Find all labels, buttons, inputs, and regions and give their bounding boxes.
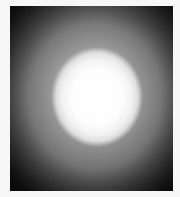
photo-frame: Blurred white circular glow centered in … xyxy=(10,6,173,191)
vignette-overlay xyxy=(10,6,173,191)
